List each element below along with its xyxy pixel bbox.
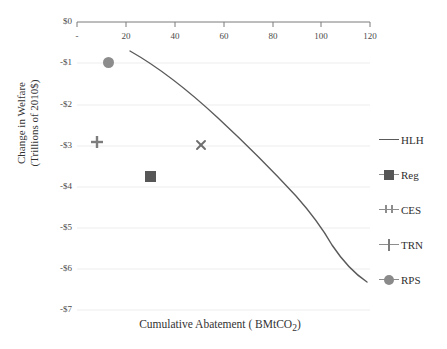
x-axis-title: Cumulative Abatement ( BMtCO2) — [60, 318, 380, 333]
legend-item-trn[interactable]: TRN — [378, 227, 447, 262]
x-tick-label-40: 40 — [155, 31, 195, 41]
legend-item-rps[interactable]: RPS — [378, 262, 447, 297]
marker-ces — [197, 141, 205, 149]
y-tick-label-3: -$3 — [38, 140, 72, 150]
legend-item-reg[interactable]: Reg — [378, 157, 447, 192]
legend-line-icon — [378, 132, 400, 148]
legend-square-icon — [378, 167, 400, 183]
legend-label-ces: CES — [400, 204, 421, 216]
legend-label-hlh: HLH — [400, 134, 424, 146]
legend-item-hlh[interactable]: HLH — [378, 122, 447, 157]
legend-plus-icon — [378, 237, 400, 253]
y-tick-label-4: -$4 — [38, 181, 72, 191]
y-tick-label-7: -$7 — [38, 304, 72, 314]
x-tick-label-60: 60 — [204, 31, 244, 41]
y-axis-title-line2: (Trillions of 2010$) — [28, 23, 41, 223]
welfare-abatement-chart: $0 -$1 -$2 -$3 -$4 -$5 -$6 -$7 - 20 40 6… — [0, 0, 447, 349]
y-tick-label-6: -$6 — [38, 263, 72, 273]
x-axis-title-tail: ) — [297, 318, 301, 330]
y-tick-label-1: -$1 — [38, 57, 72, 67]
gridlines — [77, 63, 370, 310]
top-axis — [77, 22, 370, 27]
x-tick-label-80: 80 — [253, 31, 293, 41]
x-tick-label-100: 100 — [301, 31, 341, 41]
y-axis-title-line1: Change in Welfare — [15, 23, 28, 223]
y-tick-label-5: -$5 — [38, 222, 72, 232]
x-tick-label-0: - — [57, 31, 97, 41]
legend-label-rps: RPS — [400, 274, 421, 286]
legend-label-trn: TRN — [400, 239, 423, 251]
marker-rps — [103, 57, 114, 68]
x-tick-label-120: 120 — [350, 31, 390, 41]
x-tick-label-20: 20 — [106, 31, 146, 41]
y-tick-label-2: -$2 — [38, 99, 72, 109]
x-axis-title-main: Cumulative Abatement ( BMtCO — [139, 318, 292, 330]
legend-item-ces[interactable]: CES — [378, 192, 447, 227]
legend-x-icon — [378, 202, 400, 218]
legend-circle-icon — [378, 272, 400, 288]
legend-label-reg: Reg — [400, 169, 419, 181]
y-tick-label-0: $0 — [38, 16, 72, 26]
chart-legend: HLH Reg CES TRN RPS — [378, 122, 447, 297]
marker-reg — [145, 171, 156, 182]
series-hlh-line — [130, 51, 367, 282]
y-axis-title: Change in Welfare (Trillions of 2010$) — [15, 23, 41, 223]
